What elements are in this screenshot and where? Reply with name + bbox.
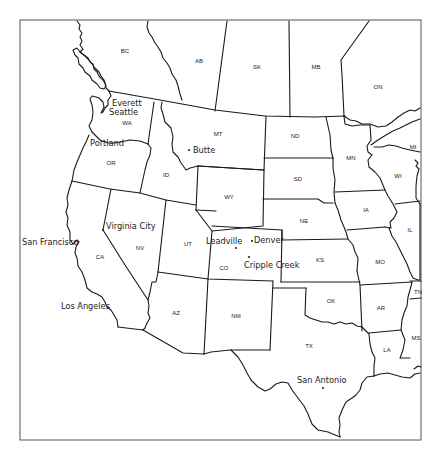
border-bc-ab xyxy=(147,21,182,100)
border-la-coast xyxy=(374,373,420,378)
region-label-ia: IA xyxy=(363,207,369,213)
border-mo-ar xyxy=(360,282,412,285)
border-wa-id xyxy=(148,102,154,144)
region-label-sd: SD xyxy=(294,176,303,182)
lake-michigan-shore xyxy=(415,160,420,204)
border-ut-wy xyxy=(196,210,216,211)
city-label-butte: Butte xyxy=(193,145,215,155)
border-mo-west xyxy=(357,271,362,331)
region-label-la: LA xyxy=(383,347,390,353)
border-mo-il xyxy=(389,228,420,280)
border-sd-ne xyxy=(263,199,333,203)
border-ok-tx xyxy=(305,288,362,327)
region-label-ms: MS xyxy=(412,335,421,341)
region-label-ar: AR xyxy=(377,305,386,311)
border-or-id xyxy=(140,144,151,193)
city-marker-butte xyxy=(188,149,190,151)
border-tx-gulf-coast xyxy=(339,376,374,437)
city-label-seattle: Seattle xyxy=(109,107,138,117)
border-37th-parallel xyxy=(158,272,273,281)
border-ca-mexico xyxy=(118,327,143,330)
region-label-wy: WY xyxy=(224,194,234,200)
region-label-mt: MT xyxy=(214,131,223,137)
region-label-ca: CA xyxy=(96,254,104,260)
vancouver-island xyxy=(73,48,106,89)
border-42nd-parallel xyxy=(72,181,196,205)
region-label-mo: MO xyxy=(375,259,385,265)
city-marker-virginia-city xyxy=(102,229,104,231)
border-ms-coast xyxy=(414,366,421,369)
city-label-san-francisco: San Francisco xyxy=(22,237,78,247)
border-ia-mo xyxy=(347,227,385,230)
region-label-az: AZ xyxy=(172,310,180,316)
city-marker-leadville xyxy=(235,247,237,249)
region-label-or: OR xyxy=(107,160,117,166)
city-label-san-antonio: San Antonio xyxy=(297,375,347,385)
region-label-wi: WI xyxy=(394,173,402,179)
city-label-leadville: Leadville xyxy=(206,236,242,246)
border-ar-ms xyxy=(400,282,412,358)
border-us-canada xyxy=(109,91,345,117)
region-label-bc: BC xyxy=(121,48,130,54)
region-label-ok: OK xyxy=(327,298,336,304)
region-labels: BCABSKMBONWAORIDMTNDSDWYMNWIMINEIAILNVUT… xyxy=(96,48,422,353)
city-marker-denver xyxy=(251,240,253,242)
region-label-mi: MI xyxy=(410,144,417,150)
border-ar-la xyxy=(369,330,401,333)
city-label-virginia-city: Virginia City xyxy=(106,221,156,231)
city-label-los-angeles: Los Angeles xyxy=(61,301,110,311)
region-label-nd: ND xyxy=(291,133,300,139)
border-sd-mn-ia xyxy=(333,158,335,203)
region-label-il: IL xyxy=(407,227,413,233)
region-label-on: ON xyxy=(374,84,383,90)
border-ne-ia-missouri-river xyxy=(335,203,358,271)
border-az-nm xyxy=(204,279,208,354)
region-label-nm: NM xyxy=(231,313,240,319)
border-tx-la xyxy=(362,327,375,376)
border-nm-mexico xyxy=(204,350,270,354)
region-label-sk: SK xyxy=(253,64,261,70)
region-label-ne: NE xyxy=(300,218,308,224)
border-tn-ms xyxy=(410,298,421,299)
region-label-tn: TN xyxy=(414,289,422,295)
region-label-id: ID xyxy=(163,172,170,178)
city-label-cripple-creek: Cripple Creek xyxy=(244,260,300,270)
border-or-coast xyxy=(72,135,89,181)
border-id-mt xyxy=(161,102,198,170)
border-mt-nd xyxy=(264,116,266,170)
border-wa-coast xyxy=(89,91,111,132)
region-label-ab: AB xyxy=(195,58,203,64)
border-ab-sk xyxy=(215,21,227,111)
region-label-ks: KS xyxy=(316,257,324,263)
border-mn-wi xyxy=(367,125,385,190)
city-marker-cripple-creek xyxy=(248,256,250,258)
region-label-co: CO xyxy=(220,265,229,271)
border-wi-il xyxy=(395,201,420,204)
border-sk-mb xyxy=(289,21,290,117)
border-az-mexico xyxy=(143,330,204,354)
city-label-portland: Portland xyxy=(90,138,124,148)
border-michigan-upper xyxy=(371,119,420,145)
city-marker-san-antonio xyxy=(322,387,324,389)
border-nv-ut xyxy=(158,200,166,272)
region-label-ut: UT xyxy=(184,241,192,247)
map: BCABSKMBONWAORIDMTNDSDWYMNWIMINEIAILNVUT… xyxy=(0,0,441,457)
region-label-tx: TX xyxy=(305,343,313,349)
border-ne-ks xyxy=(282,239,348,240)
region-label-mb: MB xyxy=(312,64,321,70)
region-label-nv: NV xyxy=(136,245,144,251)
border-mb-on xyxy=(341,21,369,116)
region-label-mn: MN xyxy=(346,155,355,161)
border-nd-mn xyxy=(326,117,333,158)
city-label-denver: Denver xyxy=(254,235,284,245)
region-label-wa: WA xyxy=(122,120,131,126)
border-mn-ia xyxy=(335,190,385,192)
border-colorado-river xyxy=(143,272,158,330)
border-rio-grande xyxy=(231,350,340,437)
border-id-wy xyxy=(196,166,198,210)
border-ia-il xyxy=(385,190,397,228)
border-nm-tx-east xyxy=(270,281,273,350)
